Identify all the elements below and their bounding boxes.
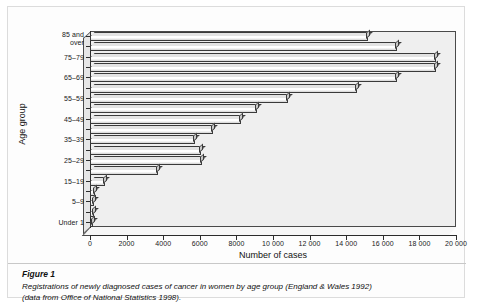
bar — [90, 107, 257, 113]
bar — [90, 159, 202, 165]
y-axis-tick — [86, 77, 90, 78]
bar — [90, 76, 397, 82]
bar-top-face — [91, 84, 362, 88]
y-axis-tick-label: 75–79 — [64, 54, 84, 61]
bar — [90, 45, 397, 51]
y-axis-tick — [86, 181, 90, 182]
x-axis-tick-label: 6000 — [192, 240, 208, 247]
bar — [90, 66, 436, 72]
y-axis-tick — [86, 150, 90, 151]
y-axis-tick — [86, 222, 90, 223]
bar-top-face — [91, 32, 373, 36]
x-axis-tick-label: 4000 — [155, 240, 171, 247]
y-axis-tick — [86, 88, 90, 89]
bar-top-face — [91, 73, 402, 77]
y-axis-tick-label: 65–69 — [64, 74, 84, 81]
y-axis-tick — [86, 108, 90, 109]
x-axis-title: Number of cases — [90, 250, 456, 260]
bar-top-face — [91, 146, 205, 150]
bar — [90, 200, 94, 206]
x-axis-tick-label: 14 000 — [335, 240, 357, 247]
y-axis-tick — [86, 98, 90, 99]
y-axis-tick — [86, 139, 90, 140]
y-axis-tick — [86, 212, 90, 213]
x-axis-tick-label: 10 000 — [262, 240, 284, 247]
x-axis-tick-label: 18 000 — [408, 240, 430, 247]
caption-divider — [8, 263, 466, 264]
figure-caption-body: Registrations of newly diagnosed cases o… — [22, 281, 454, 303]
bar-top-face — [91, 115, 246, 119]
bar — [90, 87, 357, 93]
y-axis-tick — [86, 191, 90, 192]
figure-caption: Figure 1 Registrations of newly diagnose… — [22, 269, 454, 303]
bar-top-face — [91, 63, 440, 67]
y-axis-tick — [86, 67, 90, 68]
y-axis-tick-label: Under 1 — [58, 219, 84, 226]
figure-caption-line-2: (data from Office of National Statistics… — [22, 293, 181, 302]
bar — [90, 169, 158, 175]
y-axis-tick-label: 15–19 — [64, 178, 84, 185]
x-axis-tick-label: 2000 — [119, 240, 135, 247]
x-axis-tick-label: 0 — [88, 240, 92, 247]
x-axis-tick-label: 12 000 — [299, 240, 321, 247]
x-axis-tick-label: 20 000 — [445, 240, 467, 247]
bar-top-face — [91, 94, 292, 98]
y-axis-tick-label: 85 andover — [62, 31, 84, 47]
bar — [90, 56, 436, 62]
bar-top-face — [91, 156, 206, 160]
y-axis-tick — [86, 129, 90, 130]
bar — [90, 138, 195, 144]
y-axis-tick-label: 5–9 — [72, 198, 84, 205]
y-axis-tick — [86, 170, 90, 171]
y-axis-tick-label: 25–29 — [64, 157, 84, 164]
y-axis-tick — [86, 46, 90, 47]
x-axis-tick-label: 16 000 — [372, 240, 394, 247]
y-axis-tick — [86, 160, 90, 161]
bar-top-face — [91, 135, 200, 139]
y-axis-tick — [86, 201, 90, 202]
bar-top-face — [91, 166, 162, 170]
bar-top-face — [91, 53, 440, 57]
y-axis-tick — [86, 36, 90, 37]
bar-top-face — [91, 42, 402, 46]
x-axis-tick-label: 8000 — [228, 240, 244, 247]
bar — [90, 118, 241, 124]
chart-canvas: 85 andover75–7965–6955–5945–4935–3925–29… — [8, 7, 466, 257]
bar — [90, 180, 105, 186]
y-axis-tick-label: 45–49 — [64, 116, 84, 123]
y-axis-title: Age group — [17, 64, 27, 184]
y-axis-tick-label: 35–39 — [64, 136, 84, 143]
bar-top-face — [91, 125, 217, 129]
y-axis-tick — [86, 119, 90, 120]
bar-top-face — [91, 104, 261, 108]
y-axis-tick — [86, 57, 90, 58]
bar — [90, 149, 201, 155]
figure-frame: 85 andover75–7965–6955–5945–4935–3925–29… — [7, 6, 465, 298]
figure-caption-title: Figure 1 — [22, 269, 454, 279]
y-axis-tick-label: 55–59 — [64, 95, 84, 102]
bar — [90, 221, 93, 227]
figure-caption-line-1: Registrations of newly diagnosed cases o… — [22, 282, 372, 291]
bar — [90, 35, 368, 41]
